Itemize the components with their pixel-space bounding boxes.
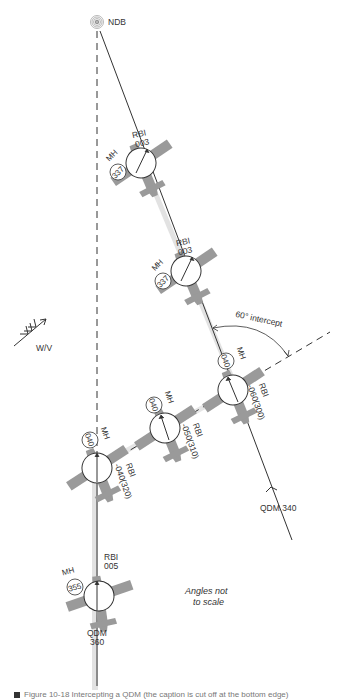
angles-note-line2: to scale [193,597,224,607]
rbi-value: 003 [134,136,150,149]
angles-note-line1: Angles not [184,586,228,596]
mh-label: MH [61,565,76,577]
caption-bullet-icon [14,692,20,698]
aircraft-6: 355 MH RBI 005 [61,552,139,636]
intercept-label: 60° intercept [234,309,283,329]
aircraft-5: 040 MH RBI -040(320) [57,426,143,515]
mh-label: MH [99,426,112,441]
wind-label: W/V [36,343,52,353]
figure-caption: Figure 10-18 Intercepting a QDM (the cap… [14,690,288,699]
mh-label: MH [104,148,119,163]
mh-label: MH [163,390,176,405]
mh-label: MH [150,257,165,272]
track-arrow-icon [266,487,277,492]
aircraft-3: 040 MH RBI -060(300) [193,346,279,437]
qdm-340-label: QDM 340 [260,503,297,513]
aircraft-2: 337 MH RBI 003 [146,235,233,317]
aircraft-1: 337 MH RBI 003 [101,127,188,209]
qdm-360-label-line2: 360 [90,637,104,647]
caption-text: Figure 10-18 Intercepting a QDM (the cap… [24,690,288,699]
wind-arrow-icon [14,319,46,346]
rbi-value: 003 [177,244,193,257]
ndb-label: NDB [108,17,126,27]
intercept-angle-arc [213,326,288,356]
arc-arrow-icon [284,350,289,356]
aircraft-4: 040 MH RBI -050(310) [125,390,211,475]
rbi-value: 005 [104,561,118,571]
mh-label: MH [235,346,248,361]
ndb-beacon-icon [91,16,104,29]
